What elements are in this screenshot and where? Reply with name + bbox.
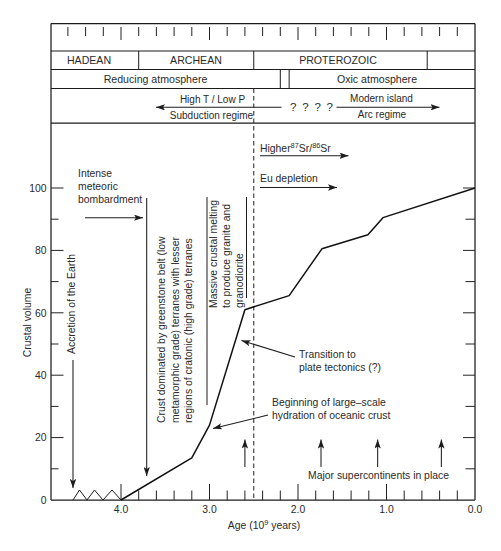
- greenstone-line-2: metamorphic grade) terranes with lesser: [170, 237, 181, 423]
- eu-depletion-label: Eu depletion: [260, 173, 318, 184]
- sr-ratio-mid: Sr/: [299, 143, 312, 154]
- x-axis-title-main: Age (10: [228, 520, 265, 531]
- annotation-bombardment: Intense meteoric bombardment: [78, 168, 143, 218]
- timescale-header: HADEAN ARCHEAN PROTEROZOIC Reducing atmo…: [51, 24, 475, 121]
- plate-tectonics-line-1: Transition to: [299, 349, 356, 360]
- annotation-accretion: Accretion of the Earth: [66, 254, 121, 500]
- plate-tectonics-arrow-icon: [242, 341, 296, 358]
- greenstone-line-1: Crust dominated by greenstone belt (low: [156, 236, 167, 423]
- hydration-line-2: hydration of oceanic crust: [272, 410, 391, 421]
- sr-isotope-label: Higher87Sr/86Sr: [260, 141, 331, 154]
- bombardment-line-1: Intense: [78, 168, 112, 179]
- annotation-supercontinents: Major supercontinents in place: [245, 440, 449, 482]
- crustal-melting-line-2: to produce granite and: [221, 204, 232, 308]
- x-tick-label: 1.0: [379, 504, 394, 515]
- timescale-ticks: [68, 27, 457, 40]
- oxic-atmosphere-label: Oxic atmosphere: [337, 73, 417, 85]
- axis-tick-labels: 4.03.02.01.00.0020406080100: [29, 183, 482, 515]
- bombardment-line-2: meteoric: [78, 181, 118, 192]
- sr-prefix: Higher: [260, 143, 291, 154]
- hydration-arrow-icon: [213, 415, 268, 429]
- sr-mass-86: 86: [312, 141, 320, 150]
- annotation-crustal-melting: Massive crustal melting to produce grani…: [208, 197, 247, 308]
- subduction-regime-label: Subduction regime: [170, 110, 254, 121]
- uncertain-transition-marks: ? ? ? ?: [290, 101, 334, 113]
- hydration-line-1: Beginning of large–scale: [272, 397, 386, 408]
- crustal-melting-line-3: granodiorite: [234, 253, 245, 308]
- high-t-low-p-label: High T / Low P: [180, 94, 246, 105]
- modern-island-label: Modern island: [350, 93, 413, 104]
- annotation-sr-isotopes: Higher87Sr/86Sr: [260, 141, 349, 156]
- reducing-atmosphere-label: Reducing atmosphere: [104, 73, 208, 85]
- greenstone-line-3: regions of cratonic (high grade) terrane…: [183, 238, 194, 423]
- arc-regime-label: Arc regime: [358, 109, 407, 120]
- supercontinents-label: Major supercontinents in place: [308, 470, 449, 481]
- y-tick-label: 60: [35, 308, 47, 319]
- crustal-melting-line-1: Massive crustal melting: [208, 200, 219, 308]
- y-axis-title: Crustal volume: [22, 288, 33, 358]
- annotation-eu-depletion: Eu depletion: [260, 173, 337, 188]
- y-tick-label: 20: [35, 432, 47, 443]
- sr-mass-87: 87: [291, 141, 299, 150]
- y-tick-label: 100: [29, 183, 47, 194]
- x-tick-label: 3.0: [202, 504, 217, 515]
- sr-suffix: Sr: [320, 143, 331, 154]
- eon-label-archean: ARCHEAN: [170, 54, 222, 66]
- y-tick-label: 0: [41, 495, 47, 506]
- accretion-zigzag-icon: [73, 490, 121, 500]
- x-tick-label: 4.0: [114, 504, 129, 515]
- accretion-label: Accretion of the Earth: [66, 254, 77, 354]
- y-tick-label: 40: [35, 370, 47, 381]
- crustal-growth-figure: HADEAN ARCHEAN PROTEROZOIC Reducing atmo…: [0, 0, 501, 551]
- annotation-greenstone: Crust dominated by greenstone belt (low …: [147, 197, 207, 476]
- x-axis-title-unit: years): [268, 520, 300, 531]
- x-tick-label: 2.0: [291, 504, 306, 515]
- x-tick-label: 0.0: [468, 504, 483, 515]
- atmosphere-dividers: [280, 70, 289, 89]
- bombardment-line-3: bombardment: [78, 194, 142, 205]
- axis-ticks: [51, 188, 475, 500]
- x-axis-title: Age (109 years): [228, 518, 300, 531]
- plate-tectonics-line-2: plate tectonics (?): [299, 362, 381, 373]
- eon-label-proterozoic: PROTEROZOIC: [299, 54, 377, 66]
- y-tick-label: 80: [35, 245, 47, 256]
- annotation-hydration: Beginning of large–scale hydration of oc…: [213, 397, 391, 429]
- annotation-plate-tectonics: Transition to plate tectonics (?): [242, 341, 382, 373]
- eon-label-hadean: HADEAN: [67, 54, 111, 66]
